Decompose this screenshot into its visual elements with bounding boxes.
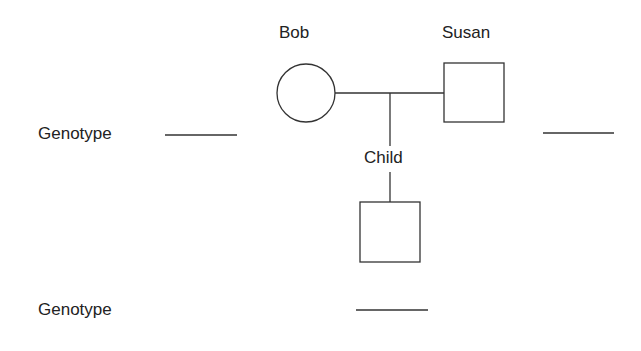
susan-square-symbol — [444, 63, 504, 122]
genotype-label-child: Genotype — [38, 300, 112, 320]
genotype-label-parents: Genotype — [38, 124, 112, 144]
child-label: Child — [364, 148, 403, 168]
susan-label: Susan — [442, 23, 490, 43]
pedigree-diagram — [0, 0, 641, 351]
bob-circle-symbol — [277, 64, 335, 122]
bob-label: Bob — [279, 23, 309, 43]
child-square-symbol — [360, 202, 420, 262]
